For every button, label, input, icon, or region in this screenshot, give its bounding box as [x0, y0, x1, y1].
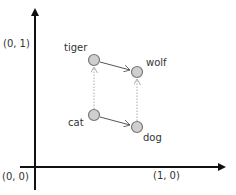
edge-cat-dog [100, 117, 130, 125]
node-label-dog: dog [143, 132, 162, 144]
y-axis-label: (0, 1) [3, 38, 30, 50]
x-axis-label: (1, 0) [153, 170, 180, 182]
node-dog [132, 122, 143, 133]
embedding-diagram [0, 0, 236, 195]
node-label-cat: cat [68, 117, 84, 129]
node-wolf [132, 67, 143, 78]
node-tiger [89, 55, 100, 66]
node-label-wolf: wolf [146, 57, 167, 69]
node-label-tiger: tiger [64, 42, 87, 54]
origin-label: (0, 0) [2, 171, 29, 183]
node-cat [89, 110, 100, 121]
edge-tiger-wolf [100, 62, 130, 70]
